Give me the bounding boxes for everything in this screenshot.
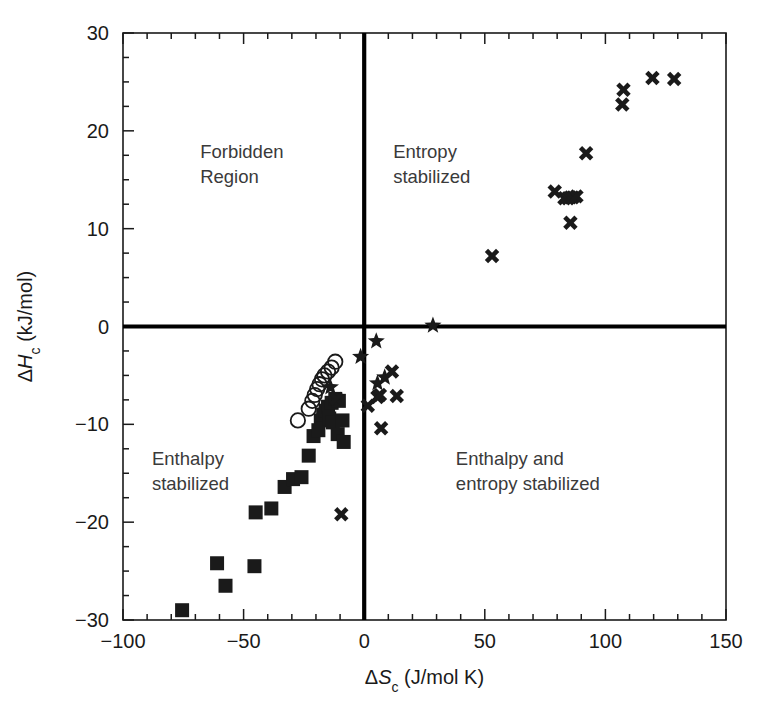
quadrant-label-lower-right: Enthalpy and [456, 448, 564, 469]
y-axis-tick-labels: −30−20−100102030 [75, 22, 109, 631]
y-tick-label: −10 [75, 413, 109, 435]
data-point-square [219, 579, 233, 593]
data-point-square [247, 559, 261, 573]
y-tick-label: 30 [87, 22, 109, 44]
data-point-star [352, 348, 369, 364]
quadrant-label-lower-left: Enthalpy [152, 448, 225, 469]
quadrant-label-upper-right-line2: stabilized [393, 166, 470, 187]
quadrant-label-upper-left: Forbidden [200, 141, 283, 162]
quadrant-label-lower-right-line2: entropy stabilized [456, 473, 600, 494]
x-axis-title: ΔSc (J/mol K) [365, 666, 484, 695]
x-tick-label: 150 [709, 630, 742, 652]
data-point-square [294, 470, 308, 484]
x-tick-label: 50 [474, 630, 496, 652]
y-tick-label: −30 [75, 609, 109, 631]
data-point-square [210, 556, 224, 570]
quadrant-label-upper-right: Entropy [393, 141, 458, 162]
y-tick-label: 10 [87, 218, 109, 240]
data-point-star [368, 332, 385, 348]
data-point-star [424, 317, 441, 333]
y-tick-label: 0 [98, 316, 109, 338]
quadrant-annotations: ForbiddenRegionEntropystabilizedEnthalpy… [152, 141, 600, 494]
quadrant-label-upper-left-line2: Region [200, 166, 259, 187]
y-axis-title: ΔHc (kJ/mol) [14, 271, 43, 382]
x-tick-label: −100 [100, 630, 145, 652]
scatter-plot-figure: −100−50050100150 −30−20−100102030 Forbid… [0, 0, 768, 716]
y-tick-label: −20 [75, 511, 109, 533]
x-tick-label: −50 [227, 630, 261, 652]
zero-reference-lines [123, 33, 726, 620]
data-point-square [337, 435, 351, 449]
x-tick-label: 0 [359, 630, 370, 652]
y-tick-label: 20 [87, 120, 109, 142]
data-point-square [249, 505, 263, 519]
data-point-circle [291, 413, 305, 427]
x-axis-tick-labels: −100−50050100150 [100, 630, 742, 652]
data-point-square [335, 413, 349, 427]
data-point-square [264, 501, 278, 515]
quadrant-label-lower-left-line2: stabilized [152, 473, 229, 494]
plot-canvas: −100−50050100150 −30−20−100102030 Forbid… [0, 0, 768, 716]
data-point-square [302, 449, 316, 463]
x-tick-label: 100 [589, 630, 622, 652]
data-point-square [175, 603, 189, 617]
